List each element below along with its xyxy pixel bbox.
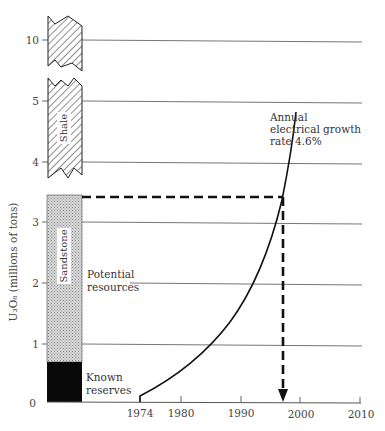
arrow-down-icon [278,389,288,402]
uranium-demand-chart: 10 5 4 3 2 1 0 U₃O₈ (millions of tons) S… [0,0,385,431]
demand-curve [140,112,296,402]
xtick-2010: 2010 [348,408,375,420]
svg-text:rate 4.6%: rate 4.6% [270,135,322,147]
xtick-1974: 1974 [127,407,154,419]
shale-segment-top [48,16,82,71]
xtick-1990: 1990 [228,407,255,419]
ytick-1: 1 [32,338,39,350]
svg-text:Annual: Annual [269,111,308,123]
gridlines [82,40,362,346]
svg-text:electrical growth: electrical growth [270,123,361,135]
ytick-10: 10 [26,34,39,46]
y-axis-label: U₃O₈ (millions of tons) [7,203,19,322]
x-axis-labels: 1974 1980 1990 2000 2010 [127,407,375,420]
ytick-0: 0 [29,397,36,409]
sandstone-label: Sandstone [58,229,69,282]
ytick-2: 2 [32,277,39,289]
svg-text:Potential: Potential [87,268,135,280]
ytick-4: 4 [32,156,39,168]
curve-annotation: Annual electrical growth rate 4.6% [269,111,361,147]
svg-text:reserves: reserves [86,384,131,396]
svg-text:resources: resources [87,281,139,293]
xtick-1980: 1980 [168,407,195,419]
ytick-5: 5 [32,95,39,107]
known-reserves-annotation: Known reserves [86,371,131,396]
x-axis-line [47,402,361,403]
y-axis-labels: 10 5 4 3 2 1 0 [26,34,40,409]
svg-text:Known: Known [86,371,123,383]
potential-resources-annotation: Potential resources [87,268,139,293]
known-reserves-segment [47,362,82,402]
xtick-2000: 2000 [288,408,315,420]
shale-label: Shale [58,114,69,142]
ytick-3: 3 [32,216,39,228]
